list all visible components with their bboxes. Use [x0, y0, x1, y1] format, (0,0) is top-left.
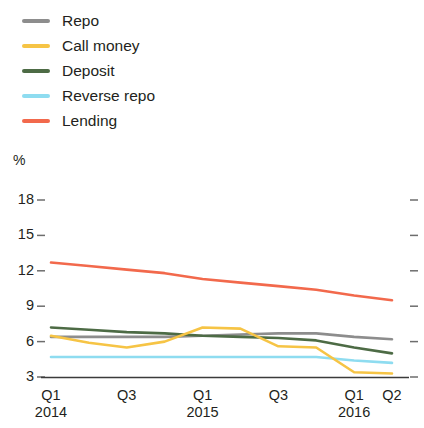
data-series-group	[51, 263, 392, 374]
series-line-deposit	[51, 327, 392, 353]
series-line-lending	[51, 263, 392, 301]
line-chart: RepoCall moneyDepositReverse repoLending…	[0, 0, 424, 428]
series-line-reverse-repo	[51, 357, 392, 363]
plot-area	[0, 0, 424, 428]
axis-tick-marks	[37, 200, 418, 377]
